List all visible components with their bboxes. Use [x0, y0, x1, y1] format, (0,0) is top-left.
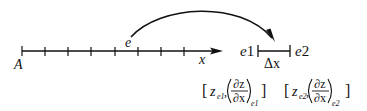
- left-paren: [228, 79, 232, 103]
- close-bracket: ]: [345, 82, 350, 99]
- node-vector-e2: [ z e2 , ∂z ∂x e2 ]: [284, 77, 350, 108]
- deriv-denominator: ∂x: [233, 91, 245, 105]
- mapping-arrow-icon: [266, 29, 275, 43]
- node-e1-index: 1: [247, 43, 255, 59]
- open-bracket: [: [284, 82, 289, 99]
- mapping-curve: [131, 11, 272, 38]
- node-e1-label: e1: [240, 43, 254, 59]
- node-e2-label: e2: [295, 43, 309, 59]
- delta-x: Δx: [264, 56, 280, 71]
- close-bracket: ]: [261, 82, 266, 99]
- separator: ,: [224, 85, 227, 99]
- start-label: A: [13, 57, 23, 72]
- deriv-subscript: e1: [251, 99, 259, 108]
- value-symbol: z: [291, 84, 298, 99]
- element-label: e: [125, 35, 131, 50]
- left-paren: [309, 79, 313, 103]
- open-bracket: [: [202, 82, 207, 99]
- finite-element-diagram: A x e e1 e2 Δx [ z e1 , ∂z ∂x e1 ] [ z e…: [0, 0, 367, 111]
- element-length-label: Δx: [264, 56, 280, 71]
- node-vector-e1: [ z e1 , ∂z ∂x e1 ]: [202, 77, 266, 108]
- x-axis: A x e: [13, 35, 223, 72]
- node-e2-index: 2: [302, 43, 310, 59]
- value-symbol: z: [209, 84, 216, 99]
- deriv-numerator: ∂z: [314, 77, 325, 91]
- axis-label: x: [198, 52, 206, 67]
- deriv-numerator: ∂z: [233, 77, 244, 91]
- element-segment: e1 e2 Δx: [240, 43, 309, 71]
- deriv-denominator: ∂x: [314, 91, 326, 105]
- deriv-subscript: e2: [332, 99, 340, 108]
